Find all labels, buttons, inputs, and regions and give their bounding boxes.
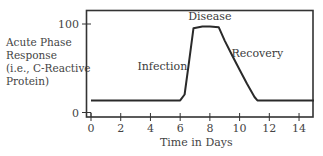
x-tick-label: 14: [292, 122, 306, 135]
x-tick-label: 8: [206, 122, 213, 135]
x-tick-label: 12: [262, 122, 276, 135]
chart-annotations: InfectionDiseaseRecovery: [137, 10, 284, 73]
x-tick-label: 6: [177, 122, 184, 135]
x-tick-label: 0: [88, 122, 95, 135]
x-tick-label: 2: [117, 122, 124, 135]
y-tick-label: 0: [72, 107, 79, 120]
x-tick-label: 10: [233, 122, 247, 135]
annotation-recovery: Recovery: [232, 47, 285, 60]
chart-plot: 0100 02468101214 InfectionDiseaseRecover…: [0, 0, 323, 156]
annotation-disease: Disease: [188, 10, 231, 23]
y-tick-label: 100: [58, 18, 79, 31]
x-tick-label: 4: [147, 122, 154, 135]
x-axis-label: Time in Days: [160, 136, 233, 149]
crp-curve: [91, 27, 314, 101]
annotation-infection: Infection: [137, 60, 187, 73]
